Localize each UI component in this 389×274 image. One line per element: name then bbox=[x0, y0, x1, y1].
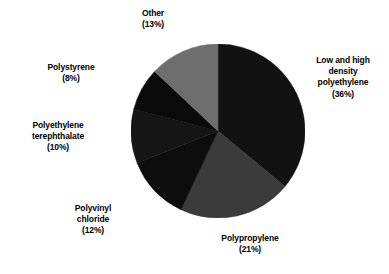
pie-label-polyvinyl-chloride: Polyvinyl chloride (12%) bbox=[44, 203, 142, 237]
pie-slice-group bbox=[131, 44, 305, 218]
pie-label-other: Other (13%) bbox=[118, 8, 188, 30]
pie-chart-graphic bbox=[131, 44, 305, 218]
pie-chart-figure: Other (13%) Low and high density polyeth… bbox=[0, 0, 389, 274]
pie-label-polystyrene: Polystyrene (8%) bbox=[24, 62, 118, 84]
pie-label-polypropylene: Polypropylene (21%) bbox=[194, 233, 306, 255]
pie-svg bbox=[131, 44, 305, 218]
pie-label-polyethylene-terephthalate: Polyethylene terephthalate (10%) bbox=[6, 120, 110, 154]
pie-label-low-and-high-density-polyethylene: Low and high density polyethylene (36%) bbox=[300, 55, 386, 100]
